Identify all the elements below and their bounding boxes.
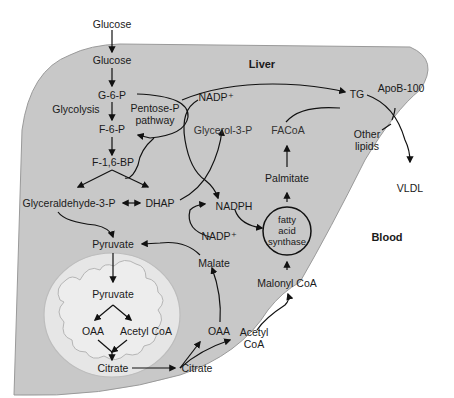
tg-label: TG — [350, 89, 365, 100]
glucose-liver-label: Glucose — [93, 55, 132, 66]
facoa-label: FACoA — [271, 125, 304, 136]
pyruvate-mito-label: Pyruvate — [92, 289, 133, 300]
f6p-label: F-6-P — [99, 124, 125, 135]
palmitate-label: Palmitate — [265, 173, 309, 184]
acetylcoa-mito-label: Acetyl CoA — [120, 326, 172, 337]
fatty-acid-synthase-label: fatty acid synthase — [268, 215, 306, 248]
apob100-label: ApoB-100 — [378, 83, 425, 94]
vldl-label: VLDL — [397, 183, 423, 194]
malate-label: Malate — [198, 258, 230, 269]
citrate-mito-label: Citrate — [98, 363, 129, 374]
acetylcoa-cytosol-label: Acetyl CoA — [240, 326, 269, 350]
citrate-cytosol-label: Citrate — [182, 363, 213, 374]
other-lipids-label: Other lipids — [354, 128, 380, 152]
malonylcoa-label: Malonyl CoA — [257, 278, 317, 289]
nadp-mid-label: NADP⁺ — [201, 231, 236, 242]
oaa-mito-label: OAA — [82, 326, 104, 337]
dhap-label: DHAP — [145, 198, 174, 209]
glycerol3p-label: Glycerol-3-P — [194, 125, 252, 136]
g6p-label: G-6-P — [98, 90, 126, 101]
liver-region-label: Liver — [249, 59, 275, 70]
blood-region-label: Blood — [371, 232, 402, 243]
f16bp-label: F-1,6-BP — [92, 157, 134, 168]
pyruvate-cytosol-label: Pyruvate — [92, 239, 133, 250]
glyceraldehyde3p-label: Glyceraldehyde-3-P — [23, 198, 116, 209]
nadp-top-label: NADP⁺ — [198, 92, 233, 103]
pentose-pathway-label: Pentose-P pathway — [130, 102, 179, 126]
glycolysis-label: Glycolysis — [52, 104, 99, 115]
nadph-label: NADPH — [216, 201, 253, 212]
oaa-cytosol-label: OAA — [208, 326, 230, 337]
glucose-blood-label: Glucose — [93, 19, 132, 30]
